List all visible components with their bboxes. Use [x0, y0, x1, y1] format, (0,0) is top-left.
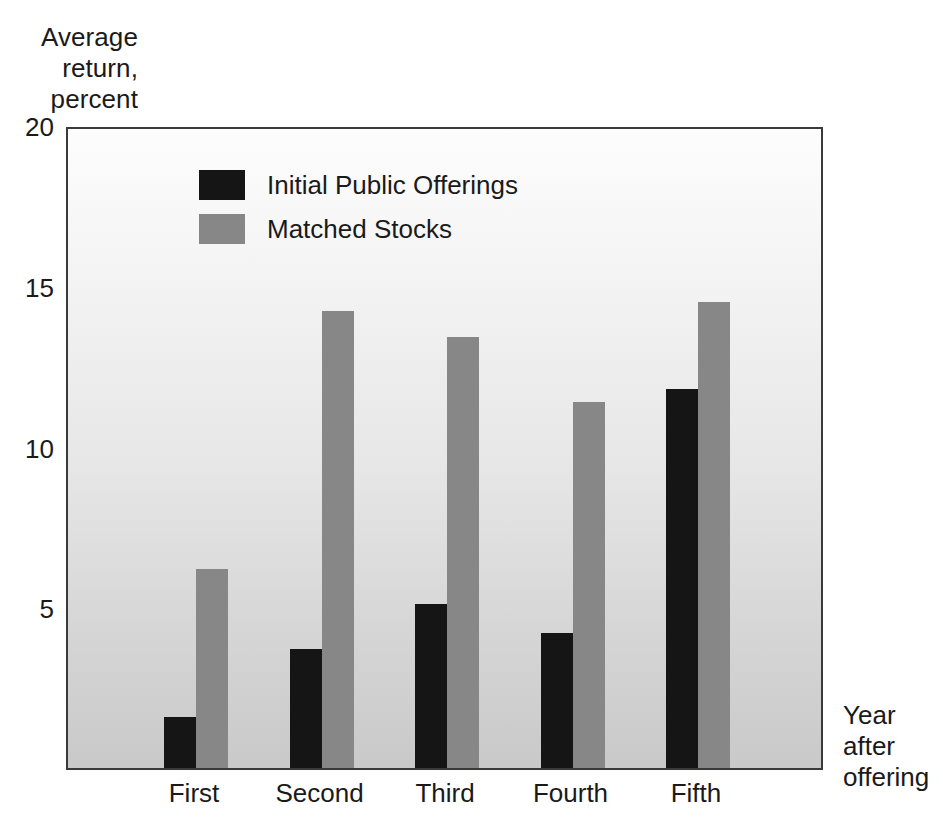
bar-fifth-ipo: [666, 389, 698, 768]
legend-item-ipo: Initial Public Offerings: [199, 163, 518, 207]
chart-page: Average return, percent 2015105 Initial …: [0, 0, 943, 826]
legend-swatch-ipo-icon: [199, 170, 245, 200]
bar-first-ipo: [164, 717, 196, 768]
chart-legend: Initial Public Offerings Matched Stocks: [199, 163, 518, 251]
plot-area: Initial Public Offerings Matched Stocks: [66, 127, 823, 770]
legend-label-matched: Matched Stocks: [267, 216, 452, 242]
y-tick-label-5: 5: [0, 596, 66, 622]
bar-first-matched: [196, 569, 228, 768]
y-tick-label-10: 10: [0, 436, 66, 462]
x-tick-label-second: Second: [275, 778, 363, 808]
bar-second-ipo: [290, 649, 322, 768]
bar-fourth-ipo: [541, 633, 573, 768]
bar-fifth-matched: [698, 302, 730, 768]
bar-fourth-matched: [573, 402, 605, 769]
x-tick-label-fifth: Fifth: [671, 778, 722, 808]
bar-third-matched: [447, 337, 479, 768]
bar-third-ipo: [415, 604, 447, 768]
x-tick-label-first: First: [169, 778, 220, 808]
y-tick-label-15: 15: [0, 275, 66, 301]
y-tick-label-20: 20: [0, 114, 66, 140]
legend-item-matched: Matched Stocks: [199, 207, 518, 251]
legend-label-ipo: Initial Public Offerings: [267, 172, 518, 198]
legend-swatch-matched-icon: [199, 214, 245, 244]
x-tick-label-third: Third: [415, 778, 474, 808]
x-tick-label-fourth: Fourth: [533, 778, 608, 808]
y-axis-title: Average return, percent: [14, 22, 138, 115]
bar-second-matched: [322, 311, 354, 768]
x-axis-title: Year after offering: [843, 700, 929, 793]
